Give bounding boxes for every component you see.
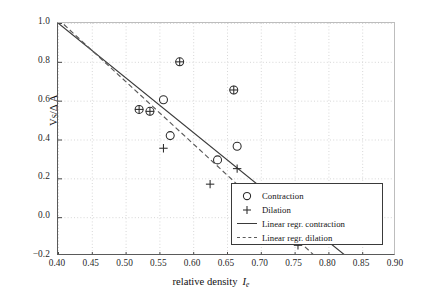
y-tick-label: 0.8 [0,55,50,65]
plus-marker [232,202,262,217]
data-point-dilation [206,180,214,188]
circle-glyph [243,192,250,199]
legend-dashed-line-icon [237,237,257,238]
data-point-contraction [159,96,167,104]
legend-entry: Linear regr. contraction [232,216,384,231]
legend-entry: Dilation [232,202,384,217]
data-point-dilation [159,144,167,152]
solid-line [232,216,262,231]
y-tick-label: 1.0 [0,16,50,26]
x-axis-label-main: relative density [173,276,238,287]
legend-label: Contraction [262,191,304,201]
data-point-contraction [233,142,241,150]
legend-label: Linear regr. dilation [262,233,332,243]
y-tick-label: 0.2 [0,171,50,181]
y-tick-label: 0.0 [0,210,50,220]
x-tick-label: 0.90 [375,258,415,268]
circle-marker [232,188,262,203]
legend-entry: Contraction [232,188,384,203]
legend-label: Linear regr. contraction [262,219,345,229]
x-axis-label: relative densityIe [0,276,422,289]
legend-solid-line-icon [237,223,257,224]
legend-entry: Linear regr. dilation [232,230,384,245]
legend-circle-icon [240,189,254,203]
y-tick-label: 0.4 [0,133,50,143]
legend-label: Dilation [262,205,291,215]
legend-plus-icon [240,203,254,217]
legend-box: ContractionDilationLinear regr. contract… [231,183,383,245]
x-axis-label-symbol-subscript: e [246,280,249,289]
dashed-line [232,230,262,245]
y-tick-label: 0.6 [0,94,50,104]
figure-canvas: VS/Δ A relative densityIe −0.20.00.20.40… [0,0,422,297]
data-point-contraction [166,132,174,140]
data-point-contraction [214,156,222,164]
